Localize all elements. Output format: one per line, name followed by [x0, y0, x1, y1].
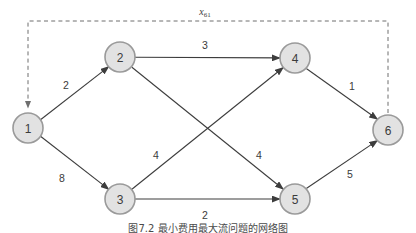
flow-arc-x61: x61	[28, 6, 388, 113]
node-2-label: 2	[117, 51, 124, 65]
flow-arc-path	[28, 21, 388, 113]
node-4[interactable]: 4	[280, 43, 310, 73]
edge-weight-1-3: 8	[59, 172, 65, 184]
edges-group	[41, 57, 378, 199]
edge-1-2	[41, 67, 109, 120]
node-6-label: 6	[385, 124, 392, 138]
flow-arc-label: x61	[198, 6, 211, 19]
network-graph: x61 2 8 3 4 4 2 1 5 1	[0, 0, 416, 233]
node-1[interactable]: 1	[13, 113, 43, 143]
figure-caption: 图7.2 最小费用最大流问题的网络图	[0, 222, 416, 233]
node-2[interactable]: 2	[105, 42, 135, 72]
node-3-label: 3	[117, 193, 124, 207]
edge-weight-3-4: 4	[256, 149, 262, 161]
node-5-label: 5	[292, 193, 299, 207]
edge-5-6	[306, 140, 377, 188]
node-3[interactable]: 3	[105, 184, 135, 214]
node-4-label: 4	[292, 52, 299, 66]
edge-weight-1-2: 2	[63, 79, 69, 91]
edge-weight-5-6: 5	[347, 168, 353, 180]
edge-weights-group: 2 8 3 4 4 2 1 5	[59, 39, 355, 221]
node-6[interactable]: 6	[373, 115, 403, 145]
edge-4-6	[306, 69, 377, 120]
edge-2-4	[135, 57, 280, 58]
node-1-label: 1	[25, 122, 32, 136]
edge-1-3	[41, 136, 109, 189]
edge-weight-4-6: 1	[349, 80, 355, 92]
edge-weight-2-4: 3	[202, 39, 208, 51]
figure-canvas: x61 2 8 3 4 4 2 1 5 1	[0, 0, 416, 233]
node-5[interactable]: 5	[280, 184, 310, 214]
edge-weight-2-5: 4	[153, 149, 159, 161]
edge-weight-3-5: 2	[202, 209, 208, 221]
